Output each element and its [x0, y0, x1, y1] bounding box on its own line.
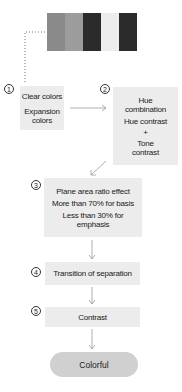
step-5-line-1: Contrast: [78, 313, 107, 322]
step-4-box: Transition of separation: [45, 262, 140, 285]
result-colorful: Colorful: [50, 352, 138, 377]
step-1-box: Clear colors Expansion colors: [20, 86, 64, 130]
step-5-box: Contrast: [45, 307, 140, 327]
arrow-2-to-3: [91, 161, 106, 175]
step-3-box: Plane area ratio effect More than 70% fo…: [44, 178, 142, 237]
step-2-line-2: Hue contrast: [124, 117, 167, 126]
step-5-number: 5: [31, 306, 41, 316]
step-2-line-1: Hue combination: [121, 96, 171, 114]
step-3-line-1: Plane area ratio effect: [56, 187, 130, 196]
step-1-line-2: Expansion colors: [24, 107, 60, 125]
step-3-line-2: More than 70% for basis: [52, 199, 134, 208]
step-1-line-1: Clear colors: [22, 92, 62, 101]
step-3-line-3: Less than 30% for emphasis: [62, 211, 124, 229]
step-4-line-1: Transition of separation: [53, 269, 132, 278]
dotted-connector: [25, 32, 45, 84]
step-2-number: 2: [100, 84, 110, 94]
step-2-line-3: +: [143, 128, 147, 137]
step-4-number: 4: [31, 267, 41, 277]
step-2-line-4: Tone contrast: [128, 139, 164, 157]
result-label: Colorful: [79, 360, 108, 370]
step-2-box: Hue combination Hue contrast + Tone cont…: [113, 87, 178, 165]
step-1-number: 1: [4, 84, 14, 94]
step-3-number: 3: [31, 180, 41, 190]
